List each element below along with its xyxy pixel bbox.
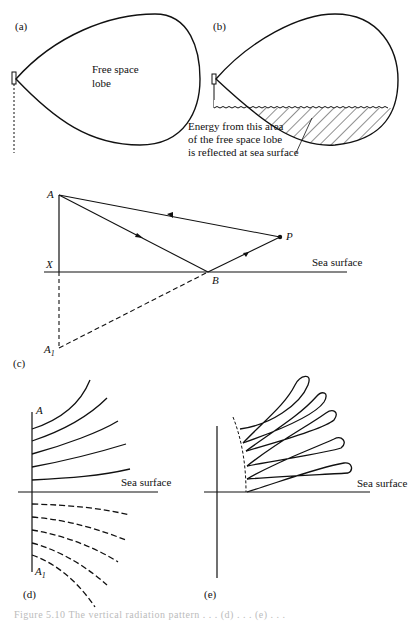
lobing-pattern <box>240 376 351 492</box>
sea-surface-label-e: Sea surface <box>357 477 408 489</box>
panel-a: (a) Free space lobe <box>12 14 200 153</box>
image-ray-dashed <box>59 272 208 348</box>
point-P-label: P <box>285 230 293 242</box>
point-B-label: B <box>212 274 219 286</box>
reflected-ray <box>208 237 280 272</box>
panel-b-label: (b) <box>213 20 226 33</box>
panel-c: A P X Sea surface B A1 (c) <box>13 188 363 370</box>
point-P-dot <box>278 235 282 239</box>
panel-e: Sea surface (e) <box>204 376 408 601</box>
point-X-label: X <box>45 258 54 270</box>
annotation-line1: Energy from this area <box>188 120 284 132</box>
direct-ray <box>59 195 280 237</box>
arrow-icon <box>167 212 173 218</box>
interference-curves-solid <box>32 380 130 480</box>
point-A1-label-d: A1 <box>34 565 46 580</box>
arrow-icon <box>135 233 143 238</box>
point-A-label-d: A <box>35 404 43 416</box>
panel-d: A Sea surface A1 (d) <box>18 380 172 607</box>
annotation-line3: is reflected at sea surface <box>188 146 299 158</box>
interference-curves-dashed <box>32 504 130 607</box>
sea-surface-label-d: Sea surface <box>121 476 172 488</box>
figure-caption: Figure 5.10 The vertical radiation patte… <box>14 609 286 620</box>
sea-surface-label: Sea surface <box>312 256 363 268</box>
point-A1-label: A1 <box>43 343 55 358</box>
lobe-label-line1: Free space <box>92 63 139 75</box>
annotation-line2: of the free space lobe <box>188 133 282 145</box>
panel-b: (b) Energy from this area of the free sp… <box>188 14 404 158</box>
incident-ray <box>59 195 208 272</box>
panel-c-label: (c) <box>13 357 26 370</box>
panel-e-label: (e) <box>204 588 217 601</box>
point-A-label: A <box>46 188 54 200</box>
antenna-icon <box>12 72 16 84</box>
panel-d-label: (d) <box>23 588 36 601</box>
figure-canvas: (a) Free space lobe (b) Energy from this… <box>0 0 416 622</box>
panel-a-label: (a) <box>15 20 28 33</box>
lobe-label-line2: lobe <box>92 77 111 89</box>
